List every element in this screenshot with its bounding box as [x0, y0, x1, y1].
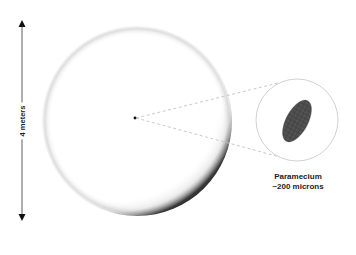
arrow-down-icon: [19, 214, 26, 221]
magnified-inset: [256, 79, 338, 161]
caption-title: Paramecium: [263, 172, 333, 182]
paramecium-caption: Paramecium ~200 microns: [263, 172, 333, 192]
caption-size: ~200 microns: [263, 182, 333, 192]
arrow-up-icon: [19, 20, 26, 27]
scale-label: 4 meters: [18, 103, 27, 140]
diagram-canvas: [0, 0, 356, 255]
large-sphere: [42, 26, 232, 216]
center-point: [134, 117, 137, 120]
